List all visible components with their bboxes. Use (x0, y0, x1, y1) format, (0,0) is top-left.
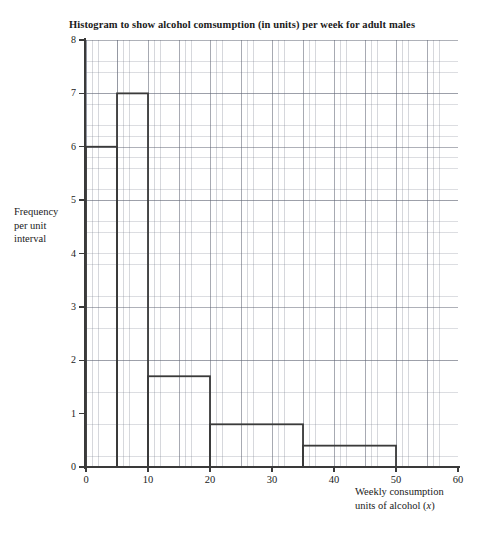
y-tick-label-text: 4 (56, 249, 76, 259)
y-tick-label-2: 2 (54, 355, 76, 365)
y-tick-8 (79, 39, 85, 40)
y-tick-label-5: 5 (54, 195, 76, 205)
y-tick-3 (79, 306, 85, 307)
y-tick-label-text: 6 (56, 142, 76, 152)
y-tick-label-text: 7 (56, 88, 76, 98)
y-tick-label-text: 0 (56, 462, 76, 472)
histogram-chart: Histogram to show alcohol comsumption (i… (0, 0, 484, 533)
x-tick-40 (333, 466, 334, 472)
x-axis-title-line2-pre: units of alcohol ( (355, 500, 426, 511)
x-axis-title: Weekly consumption units of alcohol (x) (355, 485, 480, 512)
x-tick-20 (209, 466, 210, 472)
y-tick-label-3: 3 (54, 302, 76, 312)
y-tick-label-text: 3 (56, 302, 76, 312)
y-tick-label-text: 8 (56, 35, 76, 45)
histogram-bar-5-10 (117, 93, 148, 467)
y-tick-5 (79, 199, 85, 200)
x-tick-label-10: 10 (133, 474, 163, 486)
y-tick-7 (79, 93, 85, 94)
x-tick-50 (395, 466, 396, 472)
x-tick-60 (457, 466, 458, 472)
x-tick-label-text: 20 (195, 474, 225, 486)
x-axis-title-line1: Weekly consumption (355, 485, 480, 499)
y-tick-6 (79, 146, 85, 147)
y-tick-label-8: 8 (54, 35, 76, 45)
y-axis-title-line1: Frequency (14, 205, 82, 219)
histogram-bar-20-35 (210, 424, 303, 467)
x-tick-10 (147, 466, 148, 472)
plot-area (86, 40, 458, 467)
y-tick-1 (79, 413, 85, 414)
x-tick-label-text: 10 (133, 474, 163, 486)
x-tick-label-40: 40 (319, 474, 349, 486)
histogram-bar-35-50 (303, 446, 396, 467)
y-tick-0 (79, 466, 85, 467)
y-tick-label-text: 1 (56, 409, 76, 419)
y-tick-label-text: 5 (56, 195, 76, 205)
y-tick-label-7: 7 (54, 88, 76, 98)
y-tick-label-text: 2 (56, 355, 76, 365)
x-axis-title-line2-post: ) (431, 500, 435, 511)
y-tick-label-6: 6 (54, 142, 76, 152)
y-axis-title-line2: per unit (14, 219, 82, 233)
x-tick-label-20: 20 (195, 474, 225, 486)
y-tick-label-1: 1 (54, 409, 76, 419)
x-axis-title-line2: units of alcohol (x) (355, 499, 480, 513)
x-tick-label-0: 0 (71, 474, 101, 486)
y-tick-label-4: 4 (54, 249, 76, 259)
x-tick-label-30: 30 (257, 474, 287, 486)
chart-title: Histogram to show alcohol comsumption (i… (0, 18, 484, 31)
x-tick-label-text: 40 (319, 474, 349, 486)
x-tick-0 (85, 466, 86, 472)
x-tick-label-text: 0 (71, 474, 101, 486)
y-tick-4 (79, 253, 85, 254)
y-axis-title-line3: interval (14, 232, 82, 246)
histogram-bar-10-20 (148, 376, 210, 467)
y-tick-2 (79, 360, 85, 361)
y-axis-title: Frequency per unit interval (14, 205, 82, 246)
histogram-bar-0-5 (86, 147, 117, 467)
histogram-bars (86, 40, 458, 467)
x-tick-30 (271, 466, 272, 472)
y-tick-label-0: 0 (54, 462, 76, 472)
x-tick-label-text: 30 (257, 474, 287, 486)
